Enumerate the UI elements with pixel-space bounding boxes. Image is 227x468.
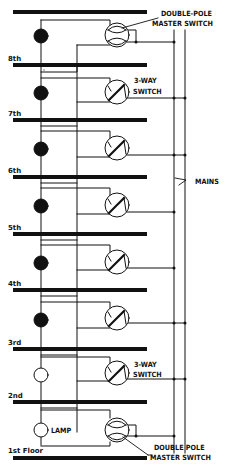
lamp-label: LAMP bbox=[51, 426, 72, 435]
floor-label: 3rd bbox=[8, 339, 21, 347]
floor-label: 8th bbox=[8, 55, 21, 63]
lamp-icon bbox=[34, 368, 48, 382]
lamp-icon bbox=[34, 29, 48, 43]
lamp-icon bbox=[34, 142, 48, 156]
floor-label: 7th bbox=[8, 110, 21, 118]
three-way-switch-icon bbox=[105, 136, 129, 160]
mains-label: MAINS bbox=[195, 177, 219, 186]
floor-label: 2nd bbox=[8, 392, 23, 400]
floor-label: 5th bbox=[8, 224, 21, 232]
mains-lines bbox=[174, 30, 185, 453]
top-switch-label-2: MASTER SWITCH bbox=[152, 19, 213, 28]
floor-labels: 8th 7th 6th 5th 4th 3rd 2nd 1st Floor bbox=[8, 55, 44, 455]
three-way-label-top-1: 3-WAY bbox=[134, 76, 157, 85]
lamp-icon bbox=[34, 256, 48, 270]
floor-label: 6th bbox=[8, 167, 21, 175]
bottom-switch-label-2: MASTER SWITCH bbox=[150, 453, 211, 462]
floor-label: 4th bbox=[8, 280, 21, 288]
lamp-icon bbox=[34, 199, 48, 213]
three-way-switch-icon bbox=[105, 193, 129, 217]
three-way-label-top-2: SWITCH bbox=[133, 87, 162, 96]
floor-label: 1st Floor bbox=[8, 447, 44, 455]
three-way-label-bottom-2: SWITCH bbox=[133, 370, 162, 379]
three-way-switch-icon bbox=[105, 80, 129, 104]
lamp-icon bbox=[34, 313, 48, 327]
top-switch-label-1: DOUBLE-POLE bbox=[161, 9, 212, 18]
three-way-switch-icon bbox=[105, 250, 129, 274]
stairwell-wiring-diagram: 8th 7th 6th 5th 4th 3rd 2nd 1st Floor DO… bbox=[0, 0, 227, 468]
three-way-label-bottom-1: 3-WAY bbox=[134, 360, 157, 369]
bottom-switch-label-1: DOUBLE POLE bbox=[154, 443, 205, 452]
lamp-icon bbox=[34, 423, 48, 437]
three-way-switch-icon bbox=[105, 361, 129, 385]
lamp-icon bbox=[34, 86, 48, 100]
floor-bars bbox=[15, 12, 145, 458]
three-way-switch-icon bbox=[105, 306, 129, 330]
